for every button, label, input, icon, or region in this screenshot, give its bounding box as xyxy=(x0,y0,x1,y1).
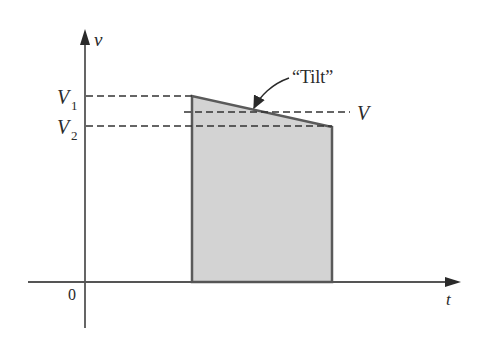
pulse-tilt-diagram: v t 0 V 1 V 2 V “Tilt” xyxy=(0,0,479,344)
y-axis-arrow-icon xyxy=(80,29,90,45)
v1-label: V xyxy=(57,86,72,108)
v1-subscript: 1 xyxy=(71,98,78,113)
tilt-arrow xyxy=(254,78,289,108)
y-axis-label: v xyxy=(94,29,103,50)
x-axis-arrow-icon xyxy=(445,277,461,287)
v2-label: V xyxy=(57,116,72,138)
tilt-label: “Tilt” xyxy=(292,67,333,87)
v2-subscript: 2 xyxy=(71,128,78,143)
v-average-label: V xyxy=(357,102,372,124)
x-axis-label: t xyxy=(446,290,452,309)
pulse-shape xyxy=(192,96,332,282)
origin-label: 0 xyxy=(68,286,76,303)
